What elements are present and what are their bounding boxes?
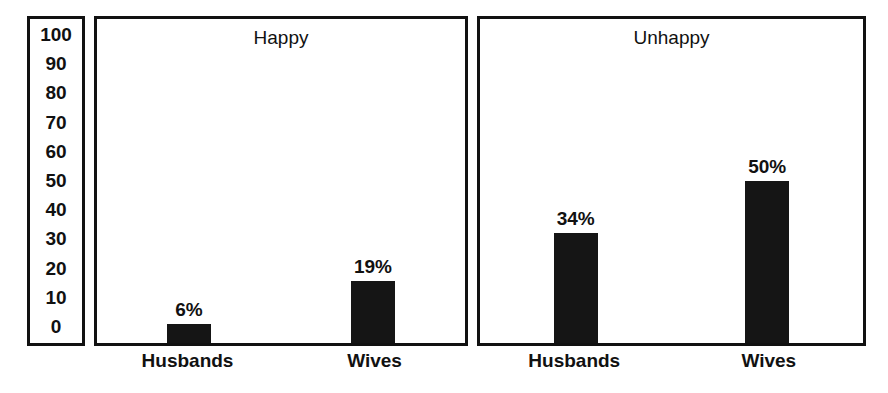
category-label-husbands: Husbands xyxy=(477,350,672,376)
category-labels-happy: Husbands Wives xyxy=(94,350,468,376)
y-axis-scale-box: 100 90 80 70 60 50 40 30 20 10 0 xyxy=(27,16,85,346)
plot-area-unhappy: 34% 50% xyxy=(480,19,863,343)
category-labels-unhappy: Husbands Wives xyxy=(477,350,866,376)
y-axis-tick: 0 xyxy=(51,317,62,336)
y-axis-tick: 50 xyxy=(45,171,66,190)
bar-chart-figure: 100 90 80 70 60 50 40 30 20 10 0 Happy 6… xyxy=(0,0,888,393)
y-axis-tick: 40 xyxy=(45,200,66,219)
y-axis-tick-list: 100 90 80 70 60 50 40 30 20 10 0 xyxy=(30,19,82,343)
panel-unhappy: Unhappy 34% 50% xyxy=(477,16,866,346)
bar-happy-husbands xyxy=(167,324,211,343)
y-axis-tick: 90 xyxy=(45,54,66,73)
y-axis-tick: 10 xyxy=(45,288,66,307)
bar-value-label: 19% xyxy=(354,257,392,276)
y-axis-tick: 20 xyxy=(45,259,66,278)
bar-value-label: 34% xyxy=(557,209,595,228)
y-axis-tick: 30 xyxy=(45,229,66,248)
bar-slot-happy-husbands: 6% xyxy=(97,19,281,343)
plot-area-happy: 6% 19% xyxy=(97,19,465,343)
bar-unhappy-wives xyxy=(745,181,789,343)
bar-slot-happy-wives: 19% xyxy=(281,19,465,343)
y-axis-tick: 100 xyxy=(40,25,72,44)
bar-slot-unhappy-wives: 50% xyxy=(672,19,864,343)
category-label-wives: Wives xyxy=(672,350,867,376)
bar-value-label: 50% xyxy=(748,157,786,176)
bar-unhappy-husbands xyxy=(554,233,598,343)
bar-value-label: 6% xyxy=(175,300,202,319)
y-axis-tick: 80 xyxy=(45,83,66,102)
bar-slot-unhappy-husbands: 34% xyxy=(480,19,672,343)
bar-happy-wives xyxy=(351,281,395,343)
category-label-wives: Wives xyxy=(281,350,468,376)
y-axis-tick: 70 xyxy=(45,113,66,132)
category-label-husbands: Husbands xyxy=(94,350,281,376)
panel-happy: Happy 6% 19% xyxy=(94,16,468,346)
y-axis-tick: 60 xyxy=(45,142,66,161)
